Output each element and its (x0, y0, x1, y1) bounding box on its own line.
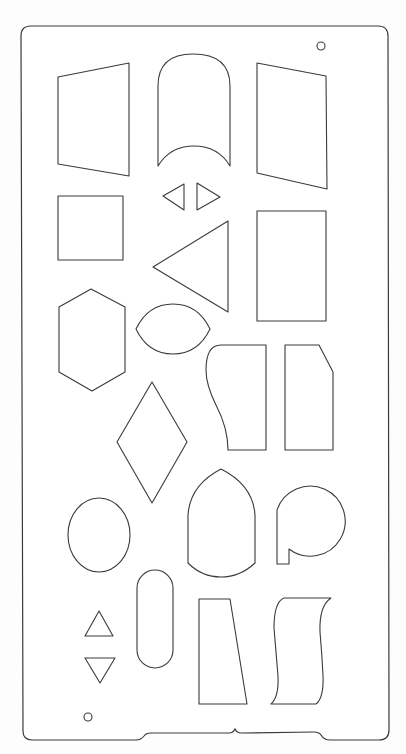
shape-stadium[interactable] (137, 570, 173, 668)
stencil-canvas: Shape stencil template (0, 0, 406, 754)
shape-hexagon[interactable] (59, 289, 125, 391)
shape-trapezoid-left[interactable] (58, 63, 129, 176)
stencil-drawing (0, 0, 406, 754)
shape-square[interactable] (58, 196, 123, 260)
shape-oval[interactable] (68, 498, 130, 572)
shape-trapezoid-right[interactable] (257, 63, 327, 189)
shape-rectangle[interactable] (257, 211, 326, 321)
shape-chamfered-rect[interactable] (285, 345, 333, 450)
